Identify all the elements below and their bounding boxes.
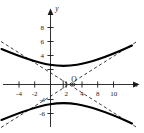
hyperbola-figure: x y O -4 -2 2 4 8 10 8 6 4 -4 -6 xyxy=(0,0,144,133)
origin-label: O xyxy=(71,75,77,84)
axes-group xyxy=(3,9,140,127)
y-tick-label-8: 8 xyxy=(41,24,45,32)
x-tick-label-2: 2 xyxy=(64,90,68,98)
y-tick-label-6: 6 xyxy=(41,38,45,46)
x-tick-label-neg4: -4 xyxy=(16,90,22,98)
y-axis-label: y xyxy=(54,4,59,13)
x-tick-label-4: 4 xyxy=(80,90,84,98)
x-axis-label: x xyxy=(133,80,138,89)
y-tick-label-neg6: -6 xyxy=(39,110,45,118)
plot-area: x y O -4 -2 2 4 8 10 8 6 4 -4 -6 xyxy=(0,0,144,133)
y-tick-label-4: 4 xyxy=(41,52,45,60)
x-tick-label-8: 8 xyxy=(96,90,100,98)
x-tick-label-10: 10 xyxy=(110,90,118,98)
y-axis-arrowhead xyxy=(48,9,54,15)
lower-branch xyxy=(2,103,133,123)
y-tick-label-neg4: -4 xyxy=(39,96,45,104)
x-tick-label-neg2: -2 xyxy=(32,90,38,98)
upper-branch xyxy=(2,46,133,66)
